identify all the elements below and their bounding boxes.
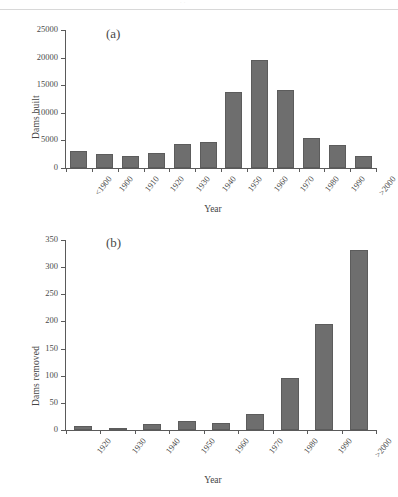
panel-a-x-tick-label: 1980	[323, 174, 341, 194]
panel-b-x-tick	[307, 430, 308, 434]
panel-a-y-tick: 5000	[61, 140, 66, 141]
chart-panel-b: (b) Dams removed 05010015020025030035019…	[0, 228, 398, 493]
panel-b-y-tick: 50	[61, 403, 66, 404]
panel-a-x-tick	[376, 168, 377, 172]
panel-a-y-axis-line	[65, 30, 66, 168]
panel-b-y-tick-label: 150	[45, 343, 58, 353]
panel-a-x-tick-label: 1930	[194, 174, 212, 194]
panel-a-y-tick-label: 25000	[37, 24, 58, 34]
bar	[200, 142, 217, 168]
panel-a-x-tick-label: <1900	[92, 174, 113, 197]
bar	[174, 144, 191, 168]
bar	[225, 92, 242, 168]
panel-b-y-tick: 100	[61, 376, 66, 377]
panel-b-x-tick-label: 1950	[198, 436, 216, 456]
panel-a-x-tick-label: 1990	[349, 174, 367, 194]
panel-b-x-tick-label: 1960	[233, 436, 251, 456]
panel-a-x-tick-label: 1920	[168, 174, 186, 194]
panel-b-x-axis-line	[65, 430, 376, 431]
panel-b-x-axis-title: Year	[183, 475, 243, 485]
panel-a-y-tick-label: 0	[54, 162, 58, 172]
panel-b-plot-area: 0501001502002503003501920193019401950196…	[66, 240, 376, 430]
bar	[109, 428, 127, 430]
header-divider	[0, 9, 398, 10]
bar	[212, 423, 230, 430]
panel-a-y-tick: 10000	[61, 113, 66, 114]
bar	[315, 324, 333, 430]
panel-a-x-tick-label: >2000	[376, 174, 397, 197]
panel-a-x-tick	[247, 168, 248, 172]
panel-b-y-tick-label: 200	[45, 315, 58, 325]
panel-b-x-tick	[204, 430, 205, 434]
panel-b-x-tick-label: 1930	[129, 436, 147, 456]
panel-b-x-tick-label: 1940	[164, 436, 182, 456]
panel-a-x-tick-label: 1900	[116, 174, 134, 194]
panel-a-x-tick	[92, 168, 93, 172]
panel-a-x-tick	[299, 168, 300, 172]
panel-b-x-tick	[100, 430, 101, 434]
panel-b-x-tick-label: 1970	[267, 436, 285, 456]
panel-a-y-axis-title: Dams built	[31, 95, 41, 139]
bar	[143, 424, 161, 430]
panel-b-x-tick	[273, 430, 274, 434]
panel-b-y-tick-label: 50	[50, 397, 59, 407]
panel-b-x-tick	[169, 430, 170, 434]
panel-a-x-axis-title: Year	[183, 204, 243, 214]
panel-b-y-tick-label: 0	[54, 424, 58, 434]
panel-a-y-tick: 20000	[61, 58, 66, 59]
header-ghost-text: · ·	[180, 0, 310, 8]
panel-a-y-tick-label: 5000	[41, 134, 58, 144]
bar	[178, 421, 196, 430]
panel-a-y-tick-label: 15000	[37, 79, 58, 89]
bar	[281, 378, 299, 430]
panel-a-x-tick-label: 1960	[271, 174, 289, 194]
panel-b-x-tick-label: 1980	[301, 436, 319, 456]
bar	[329, 145, 346, 168]
panel-a-x-tick	[221, 168, 222, 172]
panel-b-y-tick: 300	[61, 267, 66, 268]
panel-b-y-tick-label: 100	[45, 370, 58, 380]
panel-b-y-axis-title: Dams removed	[31, 346, 41, 406]
panel-a-x-tick	[350, 168, 351, 172]
panel-b-y-tick: 250	[61, 294, 66, 295]
panel-a-x-tick	[273, 168, 274, 172]
bar	[355, 156, 372, 168]
panel-a-x-tick-label: 1910	[142, 174, 160, 194]
panel-a-x-tick	[118, 168, 119, 172]
panel-b-y-tick: 350	[61, 240, 66, 241]
panel-a-y-tick-label: 20000	[37, 52, 58, 62]
panel-a-y-tick-label: 10000	[37, 107, 58, 117]
panel-b-x-tick-label: 1990	[336, 436, 354, 456]
panel-b-y-tick: 200	[61, 321, 66, 322]
panel-a-x-tick	[324, 168, 325, 172]
panel-b-x-tick-label: 1920	[95, 436, 113, 456]
chart-panel-a: (a) Dams built 0500010000150002000025000…	[0, 14, 398, 219]
bar	[148, 153, 165, 168]
panel-b-x-tick	[238, 430, 239, 434]
panel-b-x-tick	[66, 430, 67, 434]
bar	[303, 138, 320, 168]
panel-b-y-tick: 150	[61, 349, 66, 350]
bar	[70, 151, 87, 168]
bar	[350, 250, 368, 430]
bar	[277, 90, 294, 168]
panel-a-x-tick	[144, 168, 145, 172]
panel-b-x-tick	[376, 430, 377, 434]
panel-b-x-tick	[135, 430, 136, 434]
panel-b-y-tick-label: 300	[45, 261, 58, 271]
panel-b-y-axis-line	[65, 240, 66, 430]
bar	[122, 156, 139, 168]
bar	[246, 414, 264, 430]
panel-b-y-tick-label: 250	[45, 288, 58, 298]
panel-a-y-tick: 15000	[61, 85, 66, 86]
bar	[96, 154, 113, 168]
panel-a-y-tick: 25000	[61, 30, 66, 31]
panel-a-x-tick-label: 1940	[220, 174, 238, 194]
panel-b-x-tick	[342, 430, 343, 434]
panel-a-plot-area: 0500010000150002000025000<19001900191019…	[66, 30, 376, 168]
panel-a-x-tick	[66, 168, 67, 172]
panel-a-x-tick	[195, 168, 196, 172]
bar	[251, 60, 268, 168]
panel-a-x-tick-label: 1970	[297, 174, 315, 194]
panel-a-x-tick	[169, 168, 170, 172]
